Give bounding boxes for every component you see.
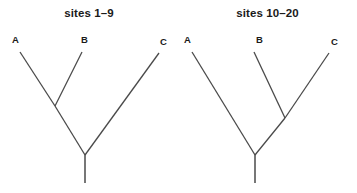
tree-graphic-right: [178, 0, 357, 193]
figure-canvas: sites 1–9 A B C sites 10–20: [0, 0, 357, 193]
taxon-label-b-right: B: [256, 35, 263, 45]
taxon-label-c-left: C: [160, 37, 167, 47]
branch-tip-b-right: [254, 52, 285, 118]
branch-internal-ab-left: [55, 106, 85, 155]
tree-graphic-left: [0, 0, 178, 193]
branch-internal-bc-right: [255, 118, 285, 155]
branch-tip-a-left: [20, 52, 55, 106]
taxon-label-a-right: A: [184, 35, 191, 45]
taxon-label-b-left: B: [81, 35, 88, 45]
branch-tip-c-right: [285, 53, 329, 118]
branch-tip-b-left: [55, 52, 82, 106]
taxon-label-a-left: A: [12, 35, 19, 45]
branch-tip-a-right: [192, 52, 255, 155]
taxon-label-c-right: C: [331, 37, 338, 47]
tree-panel-right: sites 10–20 A B C: [178, 0, 357, 193]
branch-tip-c-left: [85, 53, 159, 155]
tree-panel-left: sites 1–9 A B C: [0, 0, 178, 193]
